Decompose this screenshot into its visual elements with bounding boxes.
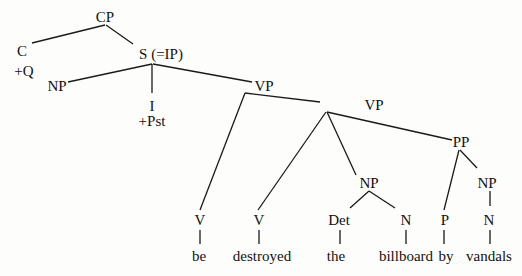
- edge-pp-p: [444, 150, 459, 210]
- node-v-destroyed: V: [254, 213, 265, 228]
- node-w-be: be: [192, 249, 206, 264]
- edge-vp2-pp: [327, 112, 452, 140]
- node-i: I: [150, 99, 155, 114]
- edge-s-np_subj: [68, 64, 152, 82]
- node-c-feat: +Q: [14, 64, 33, 79]
- edge-pp-np_by: [460, 150, 477, 168]
- node-p: P: [441, 213, 449, 228]
- node-pp: PP: [453, 135, 470, 150]
- node-c: C: [17, 44, 27, 59]
- edge-np_obj-n_billboard: [369, 191, 395, 208]
- node-i-feat: +Pst: [139, 114, 166, 129]
- node-w-by: by: [439, 249, 454, 264]
- edge-vp2-v_destroyed: [258, 112, 326, 210]
- edge-s-vp1: [153, 64, 252, 82]
- node-w-vandals: vandals: [466, 249, 512, 264]
- node-np-subj: NP: [47, 79, 66, 94]
- node-w-the: the: [327, 249, 345, 264]
- node-s: S (=IP): [139, 47, 183, 62]
- node-n-vandals: N: [484, 213, 495, 228]
- edge-vp1-v_be: [200, 93, 245, 210]
- node-det: Det: [328, 213, 350, 228]
- edge-cp-s: [106, 25, 133, 44]
- edge-vp2-np_obj: [327, 112, 356, 175]
- node-np-by: NP: [477, 176, 496, 191]
- edge-vp1-vp2: [245, 93, 320, 102]
- tree-edges: [0, 0, 522, 276]
- edge-np_obj-det: [350, 191, 369, 208]
- node-vp1: VP: [254, 79, 273, 94]
- node-cp: CP: [96, 10, 114, 25]
- node-w-billboard: billboard: [379, 249, 433, 264]
- edge-cp-c: [32, 25, 105, 43]
- syntax-tree-diagram: CPC+QS (=IP)NPI+PstVPVPPPNPNPVVDetNPNbed…: [0, 0, 522, 276]
- node-np-obj: NP: [359, 176, 378, 191]
- node-w-destroyed: destroyed: [233, 249, 291, 264]
- node-n-billboard: N: [401, 213, 412, 228]
- node-v-be: V: [195, 213, 206, 228]
- node-vp2: VP: [364, 98, 383, 113]
